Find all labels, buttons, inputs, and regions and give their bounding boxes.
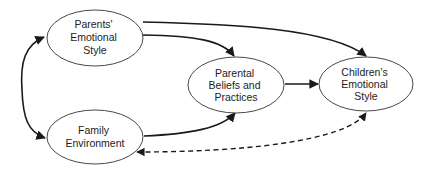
edge-parents-family — [22, 37, 45, 138]
edge-family-children — [137, 113, 366, 152]
path-diagram: Parents' Emotional Style Family Environm… — [0, 0, 436, 175]
node-label: Parental Beliefs and Practices — [209, 67, 264, 103]
edge-parents-beliefs — [143, 35, 234, 56]
node-family-environment: Family Environment — [47, 110, 143, 164]
node-parental-beliefs-and-practices: Parental Beliefs and Practices — [188, 57, 284, 113]
edge-parents-children — [143, 22, 366, 56]
node-parents-emotional-style: Parents' Emotional Style — [47, 10, 143, 66]
node-childrens-emotional-style: Children's Emotional Style — [319, 57, 413, 111]
edge-family-beliefs — [144, 113, 235, 136]
